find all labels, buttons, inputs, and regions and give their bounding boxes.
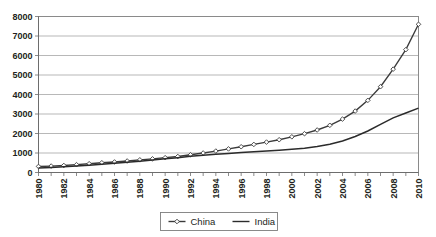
data-point-marker <box>315 128 320 133</box>
data-point-marker <box>252 142 257 147</box>
x-axis-tick-label: 1994 <box>211 179 221 199</box>
line-chart: 800070006000500040003000200010000 198019… <box>0 0 436 237</box>
x-axis-tick-label: 2006 <box>363 179 373 199</box>
x-axis-tick-label: 2000 <box>287 179 297 199</box>
series-line-india <box>39 108 419 168</box>
data-point-marker <box>416 22 421 27</box>
y-axis-tick-label: 6000 <box>12 51 32 61</box>
y-axis-tick-label: 1000 <box>12 148 32 158</box>
data-point-marker <box>239 144 244 149</box>
x-axis-tick-label: 1996 <box>237 179 247 199</box>
data-point-marker <box>328 123 333 128</box>
y-axis-tick-label: 8000 <box>12 12 32 22</box>
x-axis-tick-label: 2008 <box>389 179 399 199</box>
chart-canvas: 800070006000500040003000200010000 198019… <box>0 0 436 237</box>
y-axis-tick-label: 0 <box>27 168 32 178</box>
data-point-marker <box>277 137 282 142</box>
y-axis-tick-label: 5000 <box>12 70 32 80</box>
legend-label-china: China <box>191 216 217 227</box>
x-axis-tick-labels: 1980198219841986198819901992199419961998… <box>34 173 424 199</box>
y-axis-tick-label: 3000 <box>12 109 32 119</box>
y-axis-tick-label: 2000 <box>12 129 32 139</box>
series-line-china <box>39 24 419 166</box>
data-point-marker <box>302 131 307 136</box>
x-axis-tick-label: 1998 <box>262 179 272 199</box>
y-axis-tick-labels: 800070006000500040003000200010000 <box>12 12 38 178</box>
x-axis-tick-label: 1986 <box>110 179 120 199</box>
x-axis-tick-label: 1984 <box>85 179 95 199</box>
data-point-marker <box>226 147 231 152</box>
y-axis-tick-label: 4000 <box>12 90 32 100</box>
x-axis-tick-label: 1982 <box>59 179 69 199</box>
legend-label-india: India <box>255 216 276 227</box>
x-axis-tick-label: 2010 <box>414 179 424 199</box>
x-axis-tick-label: 1980 <box>34 179 44 199</box>
x-axis-tick-label: 1992 <box>186 179 196 199</box>
data-point-marker <box>264 140 269 145</box>
x-axis-tick-label: 2004 <box>338 179 348 199</box>
y-axis-tick-label: 7000 <box>12 31 32 41</box>
data-point-marker <box>290 135 295 140</box>
data-series <box>36 22 421 169</box>
x-axis-tick-label: 1988 <box>135 179 145 199</box>
chart-legend: ChinaIndia <box>161 213 278 231</box>
x-axis-tick-label: 2002 <box>313 179 323 199</box>
x-axis-tick-label: 1990 <box>161 179 171 199</box>
